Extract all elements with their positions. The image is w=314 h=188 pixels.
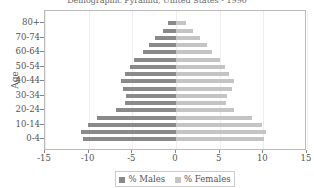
y-tick <box>40 80 44 81</box>
male-bar-50-54 <box>130 65 176 69</box>
male-bar-25-29 <box>125 101 176 105</box>
x-tick-label: 10 <box>247 153 277 163</box>
legend-item-males: % Males <box>119 174 165 184</box>
x-tick-label: 15 <box>291 153 314 163</box>
male-bar-55-59 <box>134 58 176 62</box>
y-tick-label: 40-44 <box>15 75 40 85</box>
gridline <box>307 11 308 149</box>
male-bar-20-24 <box>116 108 176 112</box>
y-tick <box>40 124 44 125</box>
male-bar-5-9 <box>81 130 176 134</box>
y-tick <box>40 66 44 67</box>
y-tick <box>40 51 44 52</box>
male-bar-35-39 <box>123 87 176 91</box>
chart-title: Demographic Pyramid, United States - 199… <box>0 0 314 5</box>
male-bar-80+ <box>168 21 176 25</box>
female-bar-40-44 <box>176 79 234 83</box>
male-bar-40-44 <box>121 79 176 83</box>
x-tick-label: -15 <box>29 153 59 163</box>
x-tick-label: -10 <box>73 153 103 163</box>
female-bar-20-24 <box>176 108 234 112</box>
female-bar-50-54 <box>176 65 225 69</box>
y-tick-label: 10-14 <box>15 119 40 129</box>
y-tick <box>40 37 44 38</box>
male-bar-65-69 <box>149 43 176 47</box>
female-bar-65-69 <box>176 43 207 47</box>
female-bar-5-9 <box>176 130 266 134</box>
gridline <box>45 11 46 149</box>
gridline <box>263 11 264 149</box>
male-bar-15-19 <box>97 116 176 120</box>
female-bar-75-79 <box>176 29 193 33</box>
y-tick-label: 70-74 <box>15 32 40 42</box>
y-tick-label: 20-24 <box>15 104 40 114</box>
female-bar-60-64 <box>176 50 212 54</box>
y-tick <box>40 95 44 96</box>
female-bar-30-34 <box>176 94 227 98</box>
x-tick-label: 5 <box>204 153 234 163</box>
female-bar-25-29 <box>176 101 226 105</box>
y-tick <box>40 109 44 110</box>
y-tick-label: 60-64 <box>15 46 40 56</box>
female-bar-70-74 <box>176 36 200 40</box>
male-bar-60-64 <box>143 50 176 54</box>
males-swatch-icon <box>119 177 125 183</box>
y-tick-label: 50-54 <box>15 61 40 71</box>
y-tick-label: 80+ <box>22 17 40 27</box>
female-bar-80+ <box>176 21 186 25</box>
females-swatch-icon <box>175 177 181 183</box>
legend: % Males % Females <box>115 171 235 187</box>
female-bar-45-49 <box>176 72 229 76</box>
plot-area <box>44 10 306 150</box>
female-bar-10-14 <box>176 123 262 127</box>
female-bar-35-39 <box>176 87 232 91</box>
y-tick <box>40 138 44 139</box>
male-bar-10-14 <box>88 123 176 127</box>
male-bar-75-79 <box>163 29 176 33</box>
male-bar-45-49 <box>125 72 176 76</box>
legend-item-females: % Females <box>175 174 230 184</box>
male-bar-70-74 <box>155 36 176 40</box>
y-tick-label: 0-4 <box>26 133 40 143</box>
y-tick-label: 30-34 <box>15 90 40 100</box>
male-bar-30-34 <box>126 94 176 98</box>
male-bar-0-4 <box>83 137 176 141</box>
x-tick-label: 0 <box>160 153 190 163</box>
y-tick <box>40 22 44 23</box>
x-tick-label: -5 <box>116 153 146 163</box>
female-bar-55-59 <box>176 58 220 62</box>
female-bar-15-19 <box>176 116 252 120</box>
gridline <box>89 11 90 149</box>
female-bar-0-4 <box>176 137 264 141</box>
